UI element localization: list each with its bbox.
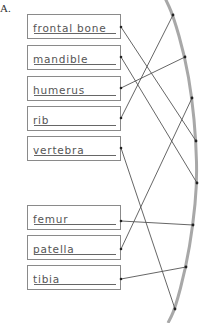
answer-underline xyxy=(34,155,116,156)
skeleton-arc-path xyxy=(165,0,197,323)
connector-line xyxy=(121,15,173,118)
arc-anchor-dot[interactable] xyxy=(172,14,175,17)
connector-line xyxy=(121,98,192,249)
bone-box-frontal-bone[interactable]: frontal bone xyxy=(27,14,121,39)
connector-line xyxy=(121,57,197,183)
arc-anchor-dot[interactable] xyxy=(184,56,187,59)
connector-line xyxy=(121,57,185,88)
arc-anchor-dot[interactable] xyxy=(174,308,177,311)
arc-anchor-dot[interactable] xyxy=(192,224,195,227)
answer-underline xyxy=(34,224,116,225)
connector-line xyxy=(121,148,175,309)
connector-lines xyxy=(121,15,197,309)
bone-box-femur[interactable]: femur xyxy=(27,205,121,230)
answer-underline xyxy=(34,125,116,126)
connector-line xyxy=(121,267,186,279)
bone-box-patella[interactable]: patella xyxy=(27,235,121,260)
arc-anchor-dot[interactable] xyxy=(196,182,199,185)
answer-underline xyxy=(34,64,116,65)
arc-anchor-dot[interactable] xyxy=(185,266,188,269)
bone-box-humerus[interactable]: humerus xyxy=(27,76,121,101)
answer-underline xyxy=(34,95,116,96)
connector-dots xyxy=(120,14,199,311)
answer-underline xyxy=(34,254,116,255)
connector-line xyxy=(121,27,196,141)
bone-box-vertebra[interactable]: vertebra xyxy=(27,136,121,161)
answer-underline xyxy=(34,284,116,285)
section-label: A. xyxy=(0,2,11,14)
skeleton-arc xyxy=(165,0,197,323)
bone-box-rib[interactable]: rib xyxy=(27,106,121,131)
arc-anchor-dot[interactable] xyxy=(191,97,194,100)
bone-box-tibia[interactable]: tibia xyxy=(27,265,121,290)
arc-anchor-dot[interactable] xyxy=(195,140,198,143)
bone-box-mandible[interactable]: mandible xyxy=(27,45,121,70)
connector-line xyxy=(121,221,193,225)
answer-underline xyxy=(34,33,116,34)
